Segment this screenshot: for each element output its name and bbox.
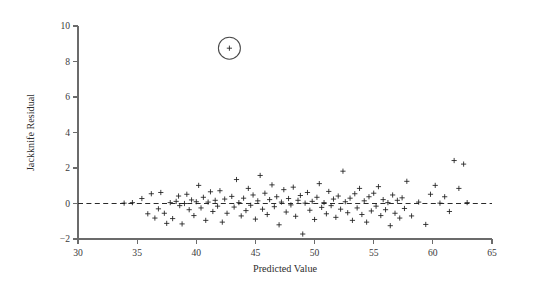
data-point-marker xyxy=(392,211,397,216)
data-point-marker xyxy=(355,205,360,210)
data-point-marker xyxy=(213,198,218,203)
data-point-marker xyxy=(220,220,225,225)
data-point-marker xyxy=(362,198,367,203)
data-point-marker xyxy=(243,208,248,213)
data-point-marker xyxy=(179,221,184,226)
x-tick-label: 60 xyxy=(428,247,438,258)
data-point-marker xyxy=(170,216,175,221)
axis-spines xyxy=(78,26,492,239)
data-point-marker xyxy=(255,198,260,203)
y-tick-label: 2 xyxy=(65,162,70,173)
data-point-marker xyxy=(371,191,376,196)
data-point-marker xyxy=(433,183,438,188)
data-point-marker xyxy=(461,161,466,166)
data-point-marker xyxy=(381,197,386,202)
data-point-marker xyxy=(447,209,452,214)
data-point-marker xyxy=(156,206,161,211)
data-point-marker xyxy=(241,196,246,201)
data-point-marker xyxy=(312,217,317,222)
y-tick-label: 0 xyxy=(65,198,70,209)
data-point-marker xyxy=(182,201,187,206)
data-point-marker xyxy=(210,209,215,214)
data-point-marker xyxy=(246,186,251,191)
data-points-layer xyxy=(122,46,470,237)
x-tick-label: 35 xyxy=(132,247,142,258)
data-point-marker xyxy=(437,201,442,206)
data-point-marker xyxy=(217,188,222,193)
data-point-marker xyxy=(397,215,402,220)
data-point-marker xyxy=(258,173,263,178)
data-point-marker xyxy=(250,192,255,197)
data-point-marker xyxy=(269,182,274,187)
data-point-marker xyxy=(149,191,154,196)
data-point-marker xyxy=(276,222,281,227)
scatter-plot: 3035404550556065−20246810Predicted Value… xyxy=(0,0,540,289)
data-point-marker xyxy=(184,192,189,197)
data-point-marker xyxy=(338,207,343,212)
x-tick-label: 65 xyxy=(487,247,497,258)
data-point-marker xyxy=(456,186,461,191)
data-point-marker xyxy=(168,200,173,205)
data-point-marker xyxy=(295,198,300,203)
data-point-marker xyxy=(122,201,127,206)
x-tick-label: 30 xyxy=(73,247,83,258)
data-point-marker xyxy=(305,190,310,195)
data-point-marker xyxy=(400,195,405,200)
data-point-marker xyxy=(395,198,400,203)
data-point-marker xyxy=(369,208,374,213)
x-tick-label: 55 xyxy=(369,247,379,258)
data-point-marker xyxy=(333,215,338,220)
data-point-marker xyxy=(272,204,277,209)
data-point-marker xyxy=(286,196,291,201)
data-point-marker xyxy=(423,222,428,227)
data-point-marker xyxy=(234,177,239,182)
y-tick-label: −2 xyxy=(60,233,70,244)
data-point-marker xyxy=(152,215,157,220)
data-point-marker xyxy=(300,231,305,236)
data-point-marker xyxy=(164,221,169,226)
data-point-marker xyxy=(364,220,369,225)
data-point-marker xyxy=(366,194,371,199)
data-point-marker xyxy=(176,193,181,198)
data-point-marker xyxy=(324,211,329,216)
data-point-marker xyxy=(378,213,383,218)
data-point-marker xyxy=(284,209,289,214)
data-point-marker xyxy=(191,213,196,218)
data-point-marker xyxy=(388,223,393,228)
data-point-marker xyxy=(274,194,279,199)
data-point-marker xyxy=(130,200,135,205)
data-point-marker xyxy=(428,192,433,197)
data-point-marker xyxy=(350,218,355,223)
data-point-marker xyxy=(359,212,364,217)
data-point-marker xyxy=(208,189,213,194)
data-point-marker xyxy=(409,213,414,218)
data-point-marker xyxy=(357,186,362,191)
data-point-marker xyxy=(340,169,345,174)
page-corner-mark xyxy=(515,270,530,279)
data-point-marker xyxy=(232,204,237,209)
figure-page: 3035404550556065−20246810Predicted Value… xyxy=(0,0,540,289)
data-point-marker xyxy=(187,207,192,212)
data-point-marker xyxy=(442,194,447,199)
data-point-marker xyxy=(196,183,201,188)
data-point-marker xyxy=(215,204,220,209)
y-tick-label: 6 xyxy=(65,91,70,102)
x-tick-label: 40 xyxy=(191,247,201,258)
data-point-marker xyxy=(203,218,208,223)
y-tick-label: 10 xyxy=(60,20,70,31)
data-point-marker xyxy=(352,191,357,196)
data-point-marker xyxy=(253,217,258,222)
x-tick-label: 50 xyxy=(310,247,320,258)
x-axis-title: Predicted Value xyxy=(253,263,318,274)
data-point-marker xyxy=(222,196,227,201)
y-axis-title: Jackknife Residual xyxy=(25,94,36,171)
data-point-marker xyxy=(291,185,296,190)
data-point-marker xyxy=(267,197,272,202)
data-point-marker xyxy=(385,200,390,205)
data-point-marker xyxy=(331,196,336,201)
data-point-marker xyxy=(303,201,308,206)
data-point-marker xyxy=(347,196,352,201)
data-point-marker xyxy=(227,46,232,51)
axes-layer xyxy=(73,26,492,244)
axis-labels-layer: 3035404550556065−20246810Predicted Value… xyxy=(25,20,497,274)
